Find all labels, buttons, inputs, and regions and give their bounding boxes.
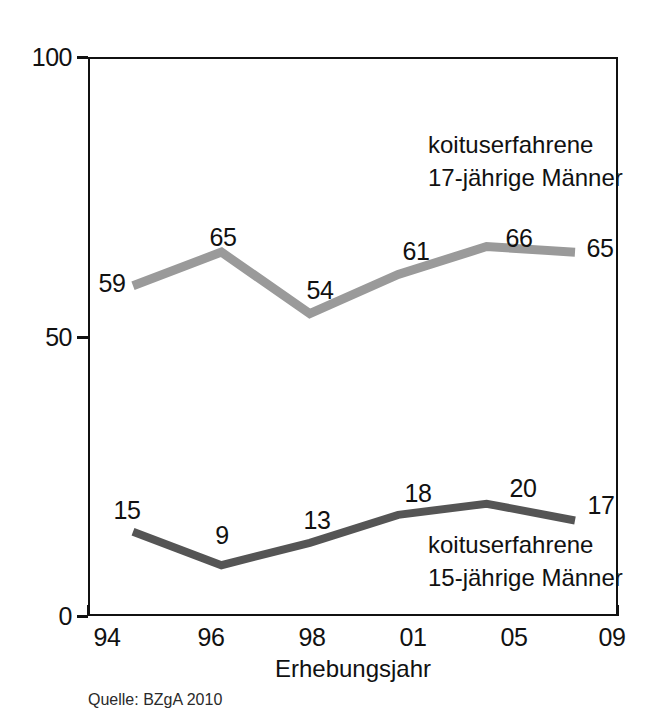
annotation-17-jaehrige: koituserfahrene 17-jährige Männer (428, 128, 623, 194)
data-label-upper-09: 65 (570, 236, 630, 261)
data-label-lower-96: 9 (192, 523, 252, 548)
source-note: Quelle: BZgA 2010 (88, 690, 222, 709)
annotation-lower-line1: koituserfahrene (428, 528, 623, 561)
annotation-lower-line2: 15-jährige Männer (428, 561, 623, 594)
annotation-15-jaehrige: koituserfahrene 15-jährige Männer (428, 528, 623, 594)
x-tick-label-98: 98 (277, 623, 347, 651)
y-tick-mark-100 (77, 56, 88, 59)
y-tick-mark-50 (77, 336, 88, 339)
data-label-upper-94: 59 (82, 271, 142, 296)
x-tick-mark-5 (616, 605, 619, 616)
data-label-upper-96: 65 (193, 225, 253, 250)
data-label-lower-98: 13 (287, 508, 347, 533)
annotation-upper-line2: 17-jährige Männer (428, 161, 623, 194)
y-axis: 100 50 0 (0, 0, 72, 727)
data-label-upper-98: 54 (290, 278, 350, 303)
x-tick-label-01: 01 (378, 623, 448, 651)
y-tick-label-100: 100 (6, 45, 72, 70)
x-axis-title: Erhebungsjahr (88, 655, 618, 683)
data-label-lower-94: 15 (97, 498, 157, 523)
x-tick-mark-0 (87, 605, 90, 616)
y-tick-label-0: 0 (6, 604, 72, 629)
line-chart: 100 50 0 94 96 98 01 05 09 59 65 54 61 6… (0, 0, 649, 727)
x-tick-label-05: 05 (479, 623, 549, 651)
x-tick-label-09: 09 (577, 623, 647, 651)
annotation-upper-line1: koituserfahrene (428, 128, 623, 161)
x-tick-label-94: 94 (72, 623, 142, 651)
y-tick-label-50: 50 (6, 325, 72, 350)
data-label-lower-05: 20 (493, 476, 553, 501)
data-label-lower-09: 17 (571, 493, 631, 518)
data-label-upper-01: 61 (386, 239, 446, 264)
data-label-lower-01: 18 (388, 481, 448, 506)
x-tick-label-96: 96 (176, 623, 246, 651)
data-label-upper-05: 66 (489, 226, 549, 251)
